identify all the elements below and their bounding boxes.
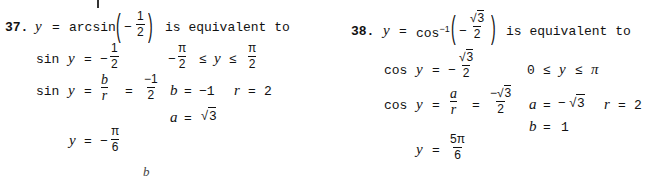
header-tail-text: is equivalent to bbox=[506, 24, 631, 39]
le-sign: ≤ bbox=[229, 52, 237, 67]
le-sign: ≤ bbox=[575, 63, 583, 78]
fraction: −1 2 bbox=[143, 73, 159, 102]
left-paren: ( bbox=[451, 10, 456, 42]
equals: = bbox=[84, 134, 92, 149]
stray-mark: b bbox=[143, 164, 150, 178]
var-r: r bbox=[604, 96, 610, 113]
equals: = bbox=[618, 98, 626, 113]
fraction: 1 2 bbox=[136, 10, 145, 39]
fraction: b r bbox=[100, 73, 109, 102]
value: 2 bbox=[264, 84, 272, 99]
function-name: cos−1 bbox=[416, 24, 450, 41]
minus-sign: − bbox=[100, 134, 108, 149]
function-name: arcsin bbox=[69, 20, 116, 35]
minus-sign: − bbox=[168, 52, 176, 67]
fraction: π 2 bbox=[247, 42, 257, 71]
equals: = bbox=[84, 84, 92, 99]
equals: = bbox=[472, 98, 480, 113]
sqrt-expression: − √3 bbox=[558, 95, 585, 110]
var-y: y bbox=[416, 96, 423, 113]
equals: = bbox=[84, 52, 92, 67]
var-y: y bbox=[68, 82, 75, 99]
var-y: y bbox=[214, 50, 221, 67]
range-lower: 0 bbox=[527, 63, 535, 78]
equals: = bbox=[543, 98, 551, 113]
minus-sign: − bbox=[459, 24, 467, 39]
equals: = bbox=[125, 84, 133, 99]
var-y: y bbox=[383, 22, 390, 39]
le-sign: ≤ bbox=[199, 52, 207, 67]
var-y: y bbox=[559, 61, 566, 78]
var-b: b bbox=[529, 118, 537, 135]
margin-tick bbox=[97, 0, 99, 8]
fraction: −√3 2 bbox=[489, 87, 512, 116]
function-name: sin bbox=[36, 52, 59, 67]
sqrt-expression: √3 bbox=[201, 108, 216, 123]
minus-sign: − bbox=[124, 20, 132, 35]
var-y: y bbox=[416, 141, 423, 158]
var-b: b bbox=[170, 82, 178, 99]
var-a: a bbox=[529, 96, 537, 113]
var-y: y bbox=[69, 132, 76, 149]
value: 2 bbox=[634, 98, 642, 113]
range-upper: π bbox=[591, 61, 599, 78]
equals: = bbox=[432, 63, 440, 78]
le-sign: ≤ bbox=[543, 63, 551, 78]
equals: = bbox=[399, 24, 407, 39]
value: −1 bbox=[199, 84, 215, 99]
fraction: π 6 bbox=[110, 125, 120, 154]
left-paren: ( bbox=[116, 8, 121, 40]
var-y: y bbox=[35, 18, 42, 35]
equals: = bbox=[184, 84, 192, 99]
var-r: r bbox=[234, 82, 240, 99]
function-name: cos bbox=[384, 98, 407, 113]
minus-sign: − bbox=[100, 52, 108, 67]
fraction: π 2 bbox=[177, 42, 187, 71]
right-paren: ) bbox=[148, 8, 153, 40]
fraction: √3 2 bbox=[458, 51, 474, 80]
equals: = bbox=[184, 111, 192, 126]
header-tail-text: is equivalent to bbox=[165, 20, 290, 35]
var-y: y bbox=[416, 61, 423, 78]
function-name: cos bbox=[384, 63, 407, 78]
var-a: a bbox=[170, 109, 178, 126]
equals: = bbox=[543, 120, 551, 135]
problem-number: 37. bbox=[5, 20, 28, 35]
fraction: 1 2 bbox=[110, 42, 119, 71]
function-name: sin bbox=[36, 84, 59, 99]
equals: = bbox=[248, 84, 256, 99]
equals: = bbox=[432, 98, 440, 113]
fraction: 5π 6 bbox=[449, 133, 466, 162]
fraction: √3 2 bbox=[469, 12, 485, 41]
minus-sign: − bbox=[448, 63, 456, 78]
problem-number: 38. bbox=[351, 24, 374, 39]
equals: = bbox=[432, 143, 440, 158]
fraction: a r bbox=[449, 87, 458, 116]
equals: = bbox=[52, 20, 60, 35]
right-paren: ) bbox=[491, 10, 496, 42]
value: 1 bbox=[561, 120, 569, 135]
var-y: y bbox=[68, 50, 75, 67]
